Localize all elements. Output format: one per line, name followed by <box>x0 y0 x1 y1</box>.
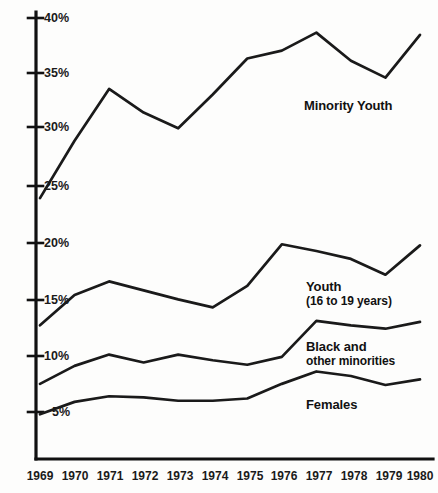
y-tick-label-10: 10% <box>44 350 69 363</box>
y-tick-label-25: 25% <box>44 180 69 193</box>
x-tick-label-1979: 1979 <box>376 470 403 482</box>
x-tick-label-1980: 1980 <box>407 470 434 482</box>
series-line-females <box>40 371 420 414</box>
series-line-minority-youth <box>40 33 420 198</box>
x-tick-label-1974: 1974 <box>202 470 229 482</box>
x-tick-label-1969: 1969 <box>27 470 54 482</box>
series-label-youth-main: Youth <box>306 279 341 294</box>
x-tick-label-1972: 1972 <box>132 470 159 482</box>
x-tick-label-1975: 1975 <box>237 470 264 482</box>
y-tick-label-5: 5% <box>52 406 70 419</box>
series-label-black-sub: other minorities <box>306 355 395 368</box>
series-label-minority-youth: Minority Youth <box>304 99 392 114</box>
x-tick-label-1971: 1971 <box>97 470 124 482</box>
series-label-youth-sub: (16 to 19 years) <box>306 295 392 308</box>
x-tick-label-1976: 1976 <box>271 470 298 482</box>
series-label-black-other-minorities: Black and other minorities <box>306 340 395 368</box>
unemployment-rate-line-chart: 40% 35% 30% 25% 20% 15% 10% 5% 1969 1970… <box>0 0 438 493</box>
series-label-black-main: Black and <box>306 339 367 354</box>
y-tick-label-20: 20% <box>44 237 69 250</box>
series-label-youth: Youth (16 to 19 years) <box>306 280 392 308</box>
x-tick-label-1978: 1978 <box>341 470 368 482</box>
x-tick-label-1973: 1973 <box>167 470 194 482</box>
y-tick-label-15: 15% <box>44 294 69 307</box>
y-tick-label-35: 35% <box>44 67 69 80</box>
x-tick-label-1970: 1970 <box>62 470 89 482</box>
series-label-females: Females <box>306 398 357 413</box>
y-tick-label-40: 40% <box>44 12 69 25</box>
y-tick-label-30: 30% <box>44 121 69 134</box>
x-tick-label-1977: 1977 <box>306 470 333 482</box>
